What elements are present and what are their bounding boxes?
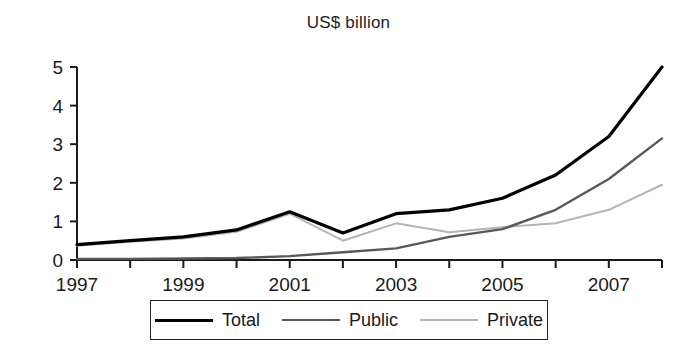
x-axis-tick-label: 1999 bbox=[162, 274, 204, 295]
legend-label-private: Private bbox=[487, 311, 543, 329]
legend-line-total-icon bbox=[155, 319, 213, 322]
y-axis-tick-label: 1 bbox=[52, 211, 63, 232]
legend-item-total[interactable]: Total bbox=[155, 311, 260, 329]
legend-line-private-icon bbox=[420, 319, 478, 321]
legend-label-total: Total bbox=[222, 311, 260, 329]
y-axis-tick-label: 0 bbox=[52, 250, 63, 271]
x-axis: 199719992001200320052007 bbox=[56, 260, 662, 295]
legend-label-public: Public bbox=[349, 311, 398, 329]
x-axis-tick-label: 2007 bbox=[588, 274, 630, 295]
x-axis-tick-label: 2003 bbox=[375, 274, 417, 295]
x-axis-tick-label: 1997 bbox=[56, 274, 98, 295]
y-axis-tick-label: 5 bbox=[52, 57, 63, 78]
legend-line-public-icon bbox=[282, 319, 340, 321]
y-axis-tick-label: 3 bbox=[52, 134, 63, 155]
y-axis: 012345 bbox=[52, 57, 77, 271]
legend-item-public[interactable]: Public bbox=[282, 311, 398, 329]
legend-item-private[interactable]: Private bbox=[420, 311, 543, 329]
chart-container: US$ billion 012345 199719992001200320052… bbox=[0, 0, 697, 353]
y-axis-tick-label: 4 bbox=[52, 96, 63, 117]
x-axis-tick-label: 2001 bbox=[269, 274, 311, 295]
series-lines bbox=[77, 67, 662, 259]
y-axis-tick-label: 2 bbox=[52, 173, 63, 194]
series-line-private bbox=[77, 185, 662, 246]
series-line-public bbox=[77, 138, 662, 258]
chart-legend: Total Public Private bbox=[150, 300, 548, 340]
x-axis-tick-label: 2005 bbox=[481, 274, 523, 295]
